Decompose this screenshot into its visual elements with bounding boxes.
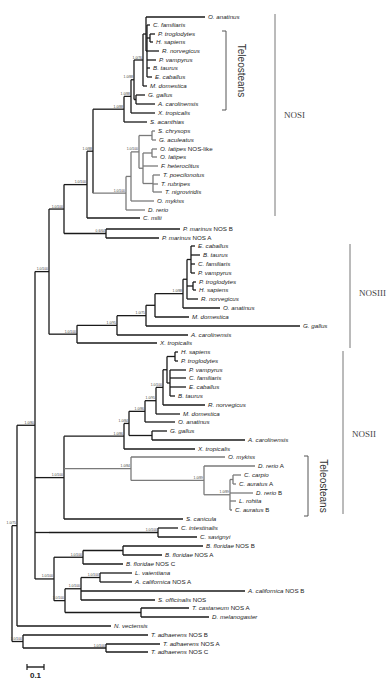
leaf-c-familiaris: C. familiaris: [198, 260, 230, 267]
leaf-p-troglodytes: P. troglodytes: [199, 278, 236, 285]
leaf-c-milii: C. milii: [143, 214, 162, 221]
leaf-p-vampyrus: P. vampyrus: [189, 366, 223, 373]
leaf-s-canicula: S. canicula: [186, 515, 217, 522]
leaf-g-aculeatus: G. aculeatus: [159, 136, 194, 143]
support-value: 1.0/89: [194, 476, 204, 480]
leaf-g-gallus: G. gallus: [170, 427, 194, 434]
support-value: 1.0/100: [53, 596, 64, 600]
leaf-t-castaneum-nos-a: T. castaneum NOS A: [192, 604, 250, 611]
leaf-f-heteroclitus: F. heteroclitus: [161, 162, 199, 169]
support-value: 1.0/100: [52, 473, 63, 477]
leaf-s-acanthias: S. acanthias: [150, 118, 184, 125]
support-value: 1.0/100: [94, 644, 105, 648]
leaf-h-sapiens: H. sapiens: [199, 286, 228, 293]
leaf-c-familiaris: C. familiaris: [153, 21, 185, 28]
teleosteans-bracket: [222, 31, 226, 110]
leaf-t-poecilonotus: T. poecilonotus: [163, 171, 204, 178]
leaf-o-latipes-nos-like: O. latipes NOS-like: [160, 145, 213, 152]
leaf-h-sapiens: H. sapiens: [181, 348, 210, 355]
leaf-a-californica-nos-a: A. californica NOS A: [134, 578, 192, 585]
leaf-o-mykiss: O. mykiss: [228, 453, 255, 460]
scale-bar-label: 0.1: [30, 671, 42, 680]
leaf-p-vampyrus: P. vampyrus: [198, 269, 232, 276]
support-value: 1.0/95: [107, 321, 117, 325]
support-value: 1.0/100: [71, 553, 82, 557]
leaf-s-chrysops: S. chrysops: [158, 127, 190, 134]
teleosteans-label: Teleosteans: [318, 459, 329, 512]
support-value: 1.0/100: [52, 205, 63, 209]
leaf-s-officinalis-nos: S. officinalis NOS: [158, 596, 206, 603]
tree-branches: [12, 17, 300, 652]
clade-label-nosiii: NOSIII: [359, 288, 386, 298]
leaf-p-troglodytes: P. troglodytes: [158, 30, 195, 37]
leaf-o-anatinus: O. anatinus: [208, 13, 240, 20]
leaf-d-rerio-b: D. rerio B: [256, 489, 282, 496]
clade-brackets: NOSINOSIIINOSIITeleosteansTeleosteans: [222, 14, 386, 516]
support-value: 1.0/88: [124, 75, 134, 79]
support-value: 1.0/76: [133, 56, 143, 60]
support-value: 1.0/100: [65, 330, 76, 334]
support-value: 1.0/95: [146, 396, 156, 400]
leaf-h-sapiens: H. sapiens: [156, 38, 185, 45]
leaf-p-marinus-nos-b: P. marinus NOS B: [183, 225, 233, 232]
teleosteans-label: Teleosteans: [236, 44, 247, 97]
leaf-l-rohita: L. rohita: [239, 497, 262, 504]
leaf-b-taurus: B. taurus: [178, 392, 203, 399]
leaf-t-adhaerens-nos-a: T. adhaerens NOS A: [163, 640, 220, 647]
leaf-r-norvegicus: R. norvegicus: [162, 47, 200, 54]
leaf-c-savignyi: C. savignyi: [200, 533, 231, 540]
leaf-r-norvegicus: R. norvegicus: [201, 295, 239, 302]
leaf-c-auratus-a: C. auratus A: [239, 480, 274, 487]
support-value: 1.0/100: [114, 189, 125, 193]
leaf-d-melanogaster: D. melanogaster: [212, 613, 258, 620]
support-value: 1.0/100: [37, 267, 48, 271]
support-value: 1.0/88: [121, 92, 131, 96]
support-value: 1.0/89: [220, 490, 230, 494]
leaf-n-vectensis: N. vectensis: [114, 622, 148, 629]
leaf-d-rerio: D. rerio: [148, 206, 169, 213]
leaf-a-carolinensis: A. carolinensis: [157, 100, 198, 107]
leaf-r-norvegicus: R. norvegicus: [208, 401, 246, 408]
leaf-e-caballus: E. caballus: [155, 73, 185, 80]
leaf-c-intestinalis: C. intestinalis: [181, 524, 218, 531]
leaf-o-anatinus: O. anatinus: [223, 304, 255, 311]
leaf-m-domestica: M. domestica: [183, 410, 220, 417]
leaf-t-adhaerens-nos-b: T. adhaerens NOS B: [151, 631, 208, 638]
support-value: 1.0/100: [42, 574, 53, 578]
clade-label-nosii: NOSII: [352, 429, 376, 439]
leaf-d-rerio-a: D. rerio A: [258, 462, 285, 469]
leaf-g-gallus: G. gallus: [148, 91, 172, 98]
leaf-x-tropicalis: X. tropicalis: [197, 445, 230, 452]
leaf-x-tropicalis: X. tropicalis: [159, 339, 192, 346]
leaf-m-domestica: M. domestica: [150, 82, 187, 89]
leaf-o-anatinus: O. anatinus: [178, 418, 210, 425]
leaf-l-vaientiana: L. vaientiana: [135, 569, 171, 576]
support-value: 1.0/88: [114, 105, 124, 109]
scale-bar: 0.1: [27, 664, 44, 680]
leaf-b-floridae-nos-c: B. floridae NOS C: [126, 560, 176, 567]
leaf-t-adhaerens-nos-c: T. adhaerens NOS C: [151, 648, 209, 655]
leaf-b-taurus: B. taurus: [203, 251, 228, 258]
leaf-m-domestica: M. domestica: [192, 313, 229, 320]
phylogenetic-tree: 1.0/761.0/881.0/881.0/881.0/1001.0/1001.…: [0, 0, 389, 689]
leaf-c-familiaris: C. familiaris: [189, 374, 221, 381]
leaf-b-floridae-nos-b: B. floridae NOS B: [206, 542, 255, 549]
support-value: 1.0/75: [136, 311, 146, 315]
leaf-b-taurus: B. taurus: [153, 64, 178, 71]
support-value: 1.0/86: [135, 407, 145, 411]
support-value: 1.0/80: [25, 421, 35, 425]
leaf-g-gallus: G. gallus: [303, 322, 327, 329]
leaf-c-carpio: C. carpio: [244, 471, 269, 478]
leaf-p-troglodytes: P. troglodytes: [181, 357, 218, 364]
support-value: 1.0/100: [151, 383, 162, 387]
leaf-o-mykiss: O. mykiss: [157, 197, 184, 204]
leaf-a-carolinensis: A. carolinensis: [190, 331, 231, 338]
leaf-e-caballus: E. caballus: [189, 383, 219, 390]
leaf-t-rubripes: T. rubripes: [161, 180, 190, 187]
leaf-c-auratus-b: C. auratus B: [235, 506, 269, 513]
support-value: 1.0/100: [75, 180, 86, 184]
support-value: 1.0/100: [146, 528, 157, 532]
support-value: 1.0/88: [173, 289, 183, 293]
support-value: 1.0/75: [7, 521, 17, 525]
leaf-t-nigroviridis: T. nigroviridis: [165, 188, 201, 195]
